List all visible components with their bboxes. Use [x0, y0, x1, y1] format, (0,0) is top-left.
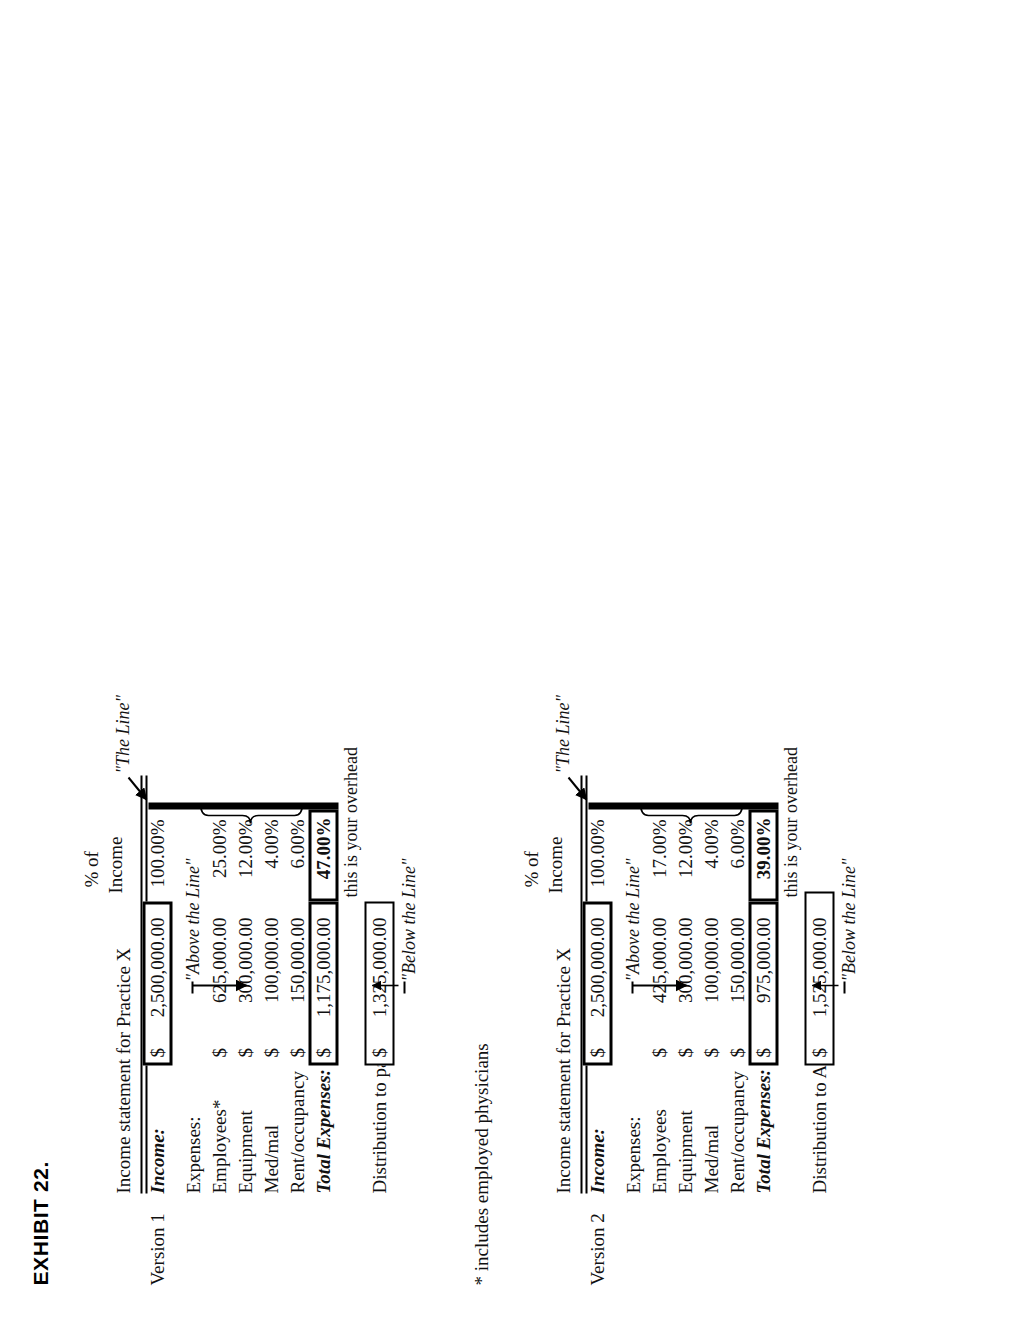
version-1-expense-label-0: Employees* [208, 1099, 230, 1193]
currency-symbol: $ [286, 1041, 308, 1057]
footnote: * includes employed physicians [470, 1043, 492, 1285]
version-2-total-percent: 39.00% [752, 817, 774, 895]
version-2-expense-amount-0: $425,000.00 [648, 917, 670, 1057]
version-1-the-line-annotation: "The Line" [112, 694, 133, 773]
version-2-income-percent: 100.00% [586, 819, 608, 897]
currency-symbol: $ [312, 1041, 334, 1057]
version-1-expense-label-3: Rent/occupancy [286, 1071, 308, 1193]
version-2-expense-amount-2: $100,000.00 [700, 917, 722, 1057]
version-2-label: Version 2 [586, 1213, 608, 1285]
currency-symbol: $ [808, 1041, 830, 1057]
version-2-expense-label-1: Equipment [674, 1110, 696, 1193]
version-1-col-header-line1: % of [80, 851, 102, 887]
version-2-expense-label-0: Employees [648, 1109, 670, 1193]
version-1-income-percent: 100.00% [146, 819, 168, 897]
version-2-the-line-annotation: "The Line" [552, 694, 573, 773]
version-2-statement-title: Income statement for Practice X [552, 947, 574, 1193]
version-2-expense-percent-0: 17.00% [648, 819, 670, 897]
version-1-expense-percent-1: 12.00% [234, 819, 256, 897]
version-1-expense-amount-0: $625,000.00 [208, 917, 230, 1057]
version-2-income-label: Income: [586, 1128, 608, 1193]
version-2-below-the-line-annotation: "Below the Line" [838, 858, 859, 981]
currency-symbol: $ [752, 1041, 774, 1057]
version-1-the-line-bar [148, 802, 338, 809]
currency-symbol: $ [700, 1041, 722, 1057]
version-1-expense-amount-1: $300,000.00 [234, 917, 256, 1057]
version-1-distribution-amount: $1,325,000.00 [368, 917, 390, 1057]
version-1-total-amount: $1,175,000.00 [312, 917, 334, 1057]
version-2-income-amount: $2,500,000.00 [586, 917, 608, 1057]
version-1-income-label: Income: [146, 1128, 168, 1193]
version-2-expense-percent-1: 12.00% [674, 819, 696, 897]
currency-symbol: $ [586, 1041, 608, 1057]
exhibit-page: EXHIBIT 22. Version 1 Income statement f… [0, 0, 1009, 1333]
version-2-total-label: Total Expenses: [752, 1069, 774, 1193]
currency-symbol: $ [674, 1041, 696, 1057]
version-2-total-amount: $975,000.00 [752, 917, 774, 1057]
currency-symbol: $ [234, 1041, 256, 1057]
currency-symbol: $ [726, 1041, 748, 1057]
version-1-statement-title: Income statement for Practice X [112, 947, 134, 1193]
version-2-expense-percent-2: 4.00% [700, 819, 722, 897]
version-1-expense-percent-2: 4.00% [260, 819, 282, 897]
version-1-overhead-note: this is your overhead [340, 747, 361, 897]
version-1-total-percent: 47.00% [312, 817, 334, 895]
version-1-col-header-line2: Income [104, 836, 126, 893]
version-1-total-label: Total Expenses: [312, 1069, 334, 1193]
version-2-the-line-bar [588, 802, 778, 809]
version-2-col-header-line2: Income [544, 836, 566, 893]
version-2-expenses-label: Expenses: [622, 1116, 644, 1193]
currency-symbol: $ [648, 1041, 670, 1057]
version-1-expense-label-2: Med/mal [260, 1124, 282, 1193]
currency-symbol: $ [146, 1041, 168, 1057]
version-1-income-amount: $2,500,000.00 [146, 917, 168, 1057]
version-1-expense-amount-2: $100,000.00 [260, 917, 282, 1057]
version-2-expense-amount-1: $300,000.00 [674, 917, 696, 1057]
version-2-above-the-line-annotation: "Above the Line" [622, 858, 643, 981]
version-2-expense-label-3: Rent/occupancy [726, 1071, 748, 1193]
version-2-overhead-note: this is your overhead [780, 747, 801, 897]
version-1-expense-percent-3: 6.00% [286, 819, 308, 897]
version-1-expense-amount-3: $150,000.00 [286, 917, 308, 1057]
version-1-below-the-line-annotation: "Below the Line" [398, 858, 419, 981]
exhibit-title: EXHIBIT 22. [28, 1161, 52, 1285]
version-1-expense-label-1: Equipment [234, 1110, 256, 1193]
currency-symbol: $ [368, 1041, 390, 1057]
currency-symbol: $ [260, 1041, 282, 1057]
version-2-expense-percent-3: 6.00% [726, 819, 748, 897]
version-1-expenses-label: Expenses: [182, 1116, 204, 1193]
version-2-distribution-amount: $1,525,000.00 [808, 917, 830, 1057]
version-1-expense-percent-0: 25.00% [208, 819, 230, 897]
version-2-expense-label-2: Med/mal [700, 1124, 722, 1193]
version-2-col-header-line1: % of [520, 851, 542, 887]
version-1-label: Version 1 [146, 1213, 168, 1285]
currency-symbol: $ [208, 1041, 230, 1057]
version-2-expense-amount-3: $150,000.00 [726, 917, 748, 1057]
version-1-above-the-line-annotation: "Above the Line" [182, 858, 203, 981]
